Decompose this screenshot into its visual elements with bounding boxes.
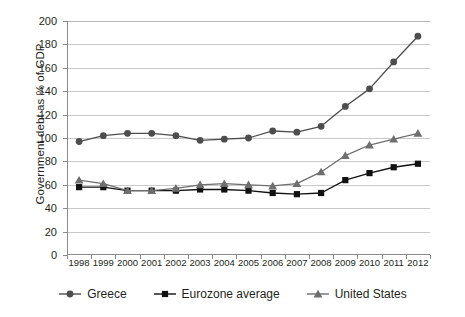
data-point-marker <box>415 33 422 40</box>
y-axis-tick-labels: 020406080100120140160180200 <box>0 21 63 255</box>
y-axis-tick-label: 0 <box>51 250 57 261</box>
data-point-marker <box>318 123 325 130</box>
data-point-marker <box>100 132 107 139</box>
data-point-marker <box>294 191 300 197</box>
data-point-marker <box>391 164 397 170</box>
x-axis-tick-label: 2012 <box>407 258 428 268</box>
x-axis-tick-label: 2006 <box>262 258 283 268</box>
data-point-marker <box>317 168 326 176</box>
data-point-marker <box>270 190 276 196</box>
data-point-marker <box>245 188 251 194</box>
x-axis-tick-label: 2001 <box>141 258 162 268</box>
data-point-marker <box>197 137 204 144</box>
data-series-layer <box>67 21 430 255</box>
data-point-marker <box>162 291 168 297</box>
plot-area <box>67 21 430 255</box>
x-axis-tick-label: 2005 <box>238 258 259 268</box>
chart-legend: GreeceEurozone averageUnited States <box>0 287 465 301</box>
data-point-marker <box>221 186 227 192</box>
data-point-marker <box>245 135 252 142</box>
x-axis-tick-label: 2003 <box>190 258 211 268</box>
data-point-marker <box>76 138 83 145</box>
y-axis-tick-label: 120 <box>39 109 57 120</box>
legend-item-eurozone-average[interactable]: Eurozone average <box>153 287 280 301</box>
data-point-marker <box>75 176 84 184</box>
x-axis-tick-labels: 1998199920002001200220032004200520062007… <box>67 258 430 274</box>
data-point-marker <box>415 161 421 167</box>
legend-item-greece[interactable]: Greece <box>58 287 126 301</box>
x-axis-tick-label: 2010 <box>359 258 380 268</box>
triangle-marker-icon <box>306 288 330 300</box>
x-axis-tick-label: 2008 <box>311 258 332 268</box>
y-axis-tick-label: 80 <box>45 156 57 167</box>
y-axis-tick-label: 20 <box>45 226 57 237</box>
data-point-marker <box>413 129 422 137</box>
x-axis-tick-label: 2002 <box>165 258 186 268</box>
data-point-marker <box>292 179 301 187</box>
data-point-marker <box>341 151 350 159</box>
y-axis-tick-label: 200 <box>39 16 57 27</box>
y-axis-tick-label: 180 <box>39 39 57 50</box>
x-axis-tick-label: 2000 <box>117 258 138 268</box>
series-greece <box>76 33 422 145</box>
data-point-marker <box>318 190 324 196</box>
y-axis-tick-label: 140 <box>39 86 57 97</box>
data-point-marker <box>366 170 372 176</box>
data-point-marker <box>294 129 301 136</box>
legend-label: Greece <box>87 287 126 301</box>
legend-label: Eurozone average <box>182 287 280 301</box>
x-axis-tick-label: 2011 <box>383 258 403 268</box>
data-point-marker <box>76 184 82 190</box>
legend-label: United States <box>335 287 407 301</box>
data-point-marker <box>269 128 276 135</box>
x-axis-tick-label: 2007 <box>286 258 307 268</box>
data-point-marker <box>173 132 180 139</box>
x-axis-tick <box>430 255 431 259</box>
data-point-marker <box>67 291 74 298</box>
y-axis-tick-label: 60 <box>45 179 57 190</box>
legend-item-united-states[interactable]: United States <box>306 287 407 301</box>
chart-container: Government debt as % of GDP 020406080100… <box>0 0 465 317</box>
data-point-marker <box>342 103 349 110</box>
data-point-marker <box>390 59 397 66</box>
x-axis-tick-label: 1999 <box>93 258 114 268</box>
y-axis-tick-label: 160 <box>39 62 57 73</box>
data-point-marker <box>148 130 155 137</box>
square-marker-icon <box>153 288 177 300</box>
data-point-marker <box>342 177 348 183</box>
y-axis-tick-label: 40 <box>45 203 57 214</box>
x-axis-tick-label: 1998 <box>69 258 90 268</box>
y-axis-tick-label: 100 <box>39 133 57 144</box>
x-axis-tick-label: 2004 <box>214 258 235 268</box>
data-point-marker <box>221 136 228 143</box>
data-point-marker <box>124 130 131 137</box>
circle-marker-icon <box>58 288 82 300</box>
x-axis-tick-label: 2009 <box>335 258 356 268</box>
data-point-marker <box>366 85 373 92</box>
